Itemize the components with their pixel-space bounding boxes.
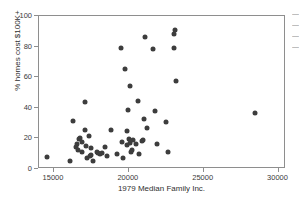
data-point: [82, 99, 87, 104]
x-axis-tick: [203, 168, 204, 172]
data-point: [126, 107, 131, 112]
x-axis-tick: [278, 168, 279, 172]
data-point: [105, 154, 110, 159]
x-axis-tick-label: 20000: [117, 173, 138, 182]
plot-area: [38, 15, 285, 168]
data-point: [137, 151, 142, 156]
data-point: [99, 151, 104, 156]
data-point: [143, 34, 148, 39]
data-point: [128, 84, 133, 89]
y-axis-tick: [34, 76, 38, 77]
data-point: [87, 134, 92, 139]
data-point: [108, 128, 113, 133]
data-point: [129, 147, 134, 152]
data-point: [75, 142, 80, 147]
data-point: [124, 129, 129, 134]
x-axis-tick-label: 15000: [43, 173, 64, 182]
data-point: [89, 153, 94, 158]
data-point: [71, 118, 76, 123]
y-axis-tick: [34, 137, 38, 138]
text-fragment-line: —: [292, 8, 299, 19]
data-point: [102, 144, 107, 149]
data-point: [68, 159, 73, 164]
data-point: [252, 110, 257, 115]
data-point: [135, 98, 140, 103]
data-point: [164, 119, 169, 124]
y-axis-tick: [34, 15, 38, 16]
data-point: [173, 78, 178, 83]
x-axis-tick: [53, 168, 54, 172]
y-axis-tick-label: 0: [0, 164, 32, 173]
text-fragment-line: —: [292, 41, 299, 52]
data-point: [83, 127, 88, 132]
data-point: [144, 125, 149, 130]
x-axis-tick-label: 30000: [267, 173, 288, 182]
data-point: [141, 138, 146, 143]
text-fragment-line: —: [292, 30, 299, 41]
y-axis-tick: [34, 46, 38, 47]
data-point: [118, 45, 123, 50]
y-axis-tick-label: 20: [0, 133, 32, 142]
data-point: [155, 142, 160, 147]
data-point: [173, 28, 178, 33]
y-axis-title: % homes cost $100K+: [13, 0, 22, 126]
data-point: [120, 156, 125, 161]
data-point: [90, 159, 95, 164]
y-axis-tick: [34, 107, 38, 108]
data-point: [141, 116, 146, 121]
scatter-plot-figure: 15000200002500030000020406080100 1979 Me…: [0, 0, 299, 200]
data-point: [150, 47, 155, 52]
data-points-layer: [39, 16, 284, 167]
data-point: [123, 67, 128, 72]
data-point: [88, 146, 93, 151]
data-point: [153, 108, 158, 113]
data-point: [172, 46, 177, 51]
data-point: [134, 141, 139, 146]
y-axis-tick: [34, 168, 38, 169]
data-point: [114, 152, 119, 157]
data-point: [165, 149, 170, 154]
data-point: [45, 155, 50, 160]
adjacent-panel-text-fragment: ————: [292, 8, 299, 52]
data-point: [79, 150, 84, 155]
x-axis-title: 1979 Median Family Inc.: [38, 184, 285, 193]
text-fragment-line: —: [292, 19, 299, 30]
x-axis-tick-label: 25000: [192, 173, 213, 182]
x-axis-tick: [128, 168, 129, 172]
